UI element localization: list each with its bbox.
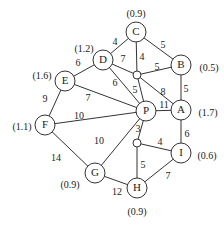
edge-weight-label: 4 (158, 136, 163, 147)
graph-diagram: 454756658579101134614105127 C(0.9)B(0.5)… (0, 0, 224, 228)
junction-j1 (133, 71, 141, 79)
edge-weight-label: 9 (43, 93, 48, 104)
junction-j2 (133, 139, 141, 147)
node-label: E (62, 74, 69, 86)
edge-weight-label: 10 (74, 110, 84, 121)
edge-weight-label: 7 (166, 170, 171, 181)
node-p: P (136, 101, 156, 121)
node-label: C (132, 25, 139, 37)
edge-weight-label: 6 (113, 77, 118, 88)
edge-weight-label: 4 (140, 51, 145, 62)
edge-weight-label: 3 (136, 123, 141, 134)
edge-weight-label: 5 (141, 159, 146, 170)
edge-weight-label: 7 (86, 92, 91, 103)
node-g: G(0.9) (60, 163, 105, 191)
edge-weight-label: 14 (51, 152, 61, 163)
node-b: B(0.5) (171, 55, 219, 75)
edge-weight-label: 5 (155, 61, 160, 72)
node-e: E(1.6) (32, 70, 75, 91)
edge-weight-label: 5 (133, 84, 138, 95)
edge-weight-label: 10 (94, 135, 104, 146)
node-label: I (179, 146, 183, 158)
edge-weight-label: 6 (76, 57, 81, 68)
node-value-label: (1.6) (32, 70, 51, 82)
edge-weight-label: 11 (159, 99, 169, 110)
node-label: H (133, 181, 141, 193)
edge-weight-label: 4 (113, 36, 118, 47)
node-h: H(0.9) (127, 178, 147, 218)
edge-weight-label: 12 (112, 186, 122, 197)
node-label: F (42, 118, 48, 130)
node-value-label: (1.1) (12, 121, 31, 133)
edge-weight-label: 5 (161, 39, 166, 50)
node-value-label: (0.5) (199, 62, 218, 74)
weights-layer: 454756658579101134614105127 (43, 36, 190, 197)
node-c: C(0.9) (126, 8, 146, 42)
edge-weight-label: 6 (185, 128, 190, 139)
node-label: P (143, 104, 149, 116)
node-label: B (177, 58, 184, 70)
edge-weight-label: 7 (121, 53, 126, 64)
node-label: D (99, 53, 107, 65)
node-label: A (177, 103, 185, 115)
node-value-label: (0.9) (127, 206, 146, 218)
node-value-label: (1.2) (74, 43, 93, 55)
node-value-label: (1.7) (198, 107, 217, 119)
node-label: G (91, 166, 99, 178)
node-value-label: (0.9) (126, 8, 145, 20)
node-a: A(1.7) (171, 100, 218, 120)
node-value-label: (0.9) (60, 179, 79, 191)
edge-weight-label: 8 (161, 86, 166, 97)
node-f: F(1.1) (12, 115, 55, 135)
edge-weight-label: 5 (184, 83, 189, 94)
node-value-label: (0.6) (197, 150, 216, 162)
node-i: I(0.6) (171, 143, 217, 163)
edge-f-p (45, 111, 146, 125)
